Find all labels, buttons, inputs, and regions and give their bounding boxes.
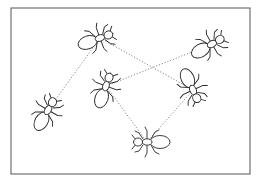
ant-layer xyxy=(24,19,233,157)
ant-icon xyxy=(170,63,213,110)
ant-icon xyxy=(84,67,125,113)
ant-icon xyxy=(73,19,119,60)
ant-icon xyxy=(185,24,233,69)
ant-icon xyxy=(24,90,69,138)
ant-network-diagram xyxy=(0,0,261,183)
ant-icon xyxy=(132,127,170,157)
link-layer xyxy=(48,38,212,142)
dotted-link xyxy=(106,86,147,142)
figure-caption xyxy=(10,178,251,183)
